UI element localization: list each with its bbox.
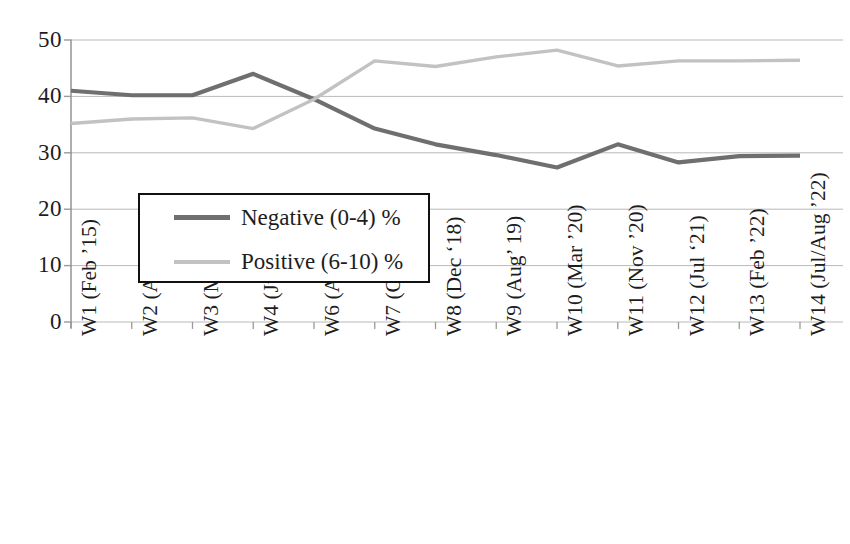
x-tick-label: W11 (Nov ’20) bbox=[626, 204, 648, 336]
x-tick-label: W13 (Feb ’22) bbox=[747, 208, 769, 336]
legend: Negative (0-4) % Positive (6-10) % bbox=[138, 193, 430, 283]
x-tick-label: W14 (Jul/Aug ’22) bbox=[808, 172, 830, 336]
legend-item-label: Positive (6-10) % bbox=[241, 250, 403, 274]
x-tick-label: W10 (Mar ’20) bbox=[565, 205, 587, 336]
x-tick-label: W12 (Jul ‘21) bbox=[687, 215, 709, 336]
line-chart: 50 40 30 20 10 0 W1 (Feb ’15)W2 (Apr ’15… bbox=[0, 0, 850, 544]
x-tick-label: W9 (Aug’ 19) bbox=[504, 216, 526, 336]
line-swatch-dark-gray-icon bbox=[174, 215, 230, 220]
x-tick-label: W1 (Feb ’15) bbox=[79, 219, 101, 336]
legend-item-label: Negative (0-4) % bbox=[241, 206, 401, 230]
legend-item-positive: Positive (6-10) % bbox=[140, 239, 428, 284]
line-swatch-light-gray-icon bbox=[174, 260, 230, 264]
legend-item-negative: Negative (0-4) % bbox=[140, 195, 428, 240]
x-tick-label: W8 (Dec ‘18) bbox=[444, 217, 466, 336]
